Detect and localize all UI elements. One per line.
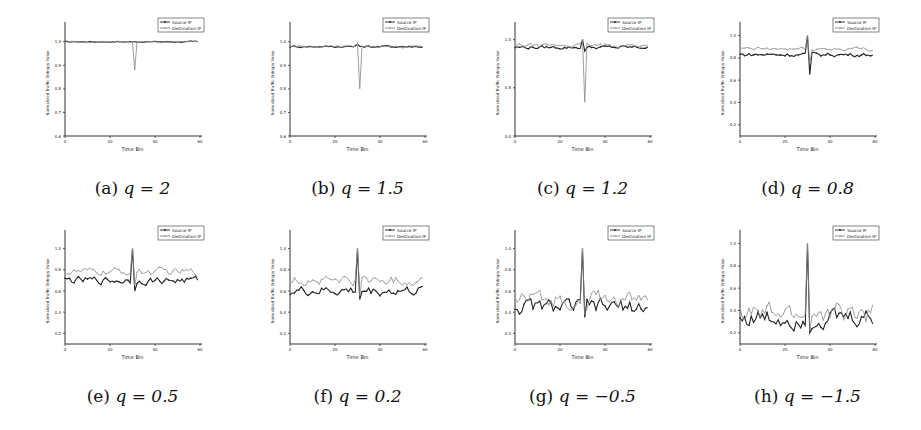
legend-entry: Destination IP (172, 26, 202, 31)
x-tick-label: 20 (107, 347, 113, 352)
x-tick-label: 20 (557, 347, 563, 352)
series-line-destination-ip (515, 40, 648, 103)
y-tick-label: 0.6 (55, 134, 62, 139)
legend: Source IPDestination IP (833, 18, 879, 32)
x-tick-label: 60 (872, 139, 878, 144)
caption-q-value: q = 1.5 (341, 178, 404, 198)
series-line-destination-ip (290, 44, 423, 89)
caption-label: (c) (537, 178, 560, 198)
chart-caption: (d) q = 0.8 (695, 178, 920, 198)
legend: Source IPDestination IP (158, 226, 204, 240)
caption-q-value: q = 0.5 (115, 386, 178, 406)
y-tick-label: 0.6 (730, 286, 737, 291)
series-line-source-ip (65, 249, 198, 291)
y-tick-label: 0.5 (505, 85, 512, 90)
legend-entry: Destination IP (622, 234, 652, 239)
y-tick-label: 1.0 (505, 37, 512, 42)
x-tick-label: 0 (64, 139, 67, 144)
caption-q-value: q = 1.2 (565, 178, 628, 198)
x-axis-label: Time Bin (796, 146, 819, 152)
y-axis-label: Normalized Traffic Entropy Value (720, 258, 725, 324)
legend-entry: Source IP (847, 228, 867, 233)
y-tick-label: 0.8 (280, 267, 287, 272)
caption-label: (g) (529, 386, 553, 406)
chart-panel-g: 0.20.40.60.81.00204060Time BinNormalized… (470, 208, 695, 418)
legend: Source IPDestination IP (833, 226, 879, 240)
x-tick-label: 20 (107, 139, 113, 144)
x-tick-label: 20 (332, 347, 338, 352)
y-tick-label: 1.0 (280, 246, 287, 251)
caption-q-value: q = −0.5 (559, 386, 636, 406)
x-tick-label: 40 (602, 347, 608, 352)
chart-panel-f: 0.20.40.60.81.00204060Time BinNormalized… (245, 208, 470, 418)
legend-entry: Destination IP (622, 26, 652, 31)
legend-entry: Destination IP (172, 234, 202, 239)
caption-q-value: q = −1.5 (784, 386, 861, 406)
caption-label: (e) (87, 386, 110, 406)
y-tick-label: 1.0 (505, 246, 512, 251)
x-tick-label: 20 (557, 139, 563, 144)
y-tick-label: 0.6 (55, 289, 62, 294)
legend-entry: Destination IP (847, 234, 877, 239)
x-tick-label: 40 (827, 139, 833, 144)
line-chart: 0.20.40.60.81.00204060Time BinNormalized… (245, 208, 470, 383)
y-tick-label: 1.0 (730, 33, 737, 38)
x-tick-label: 40 (377, 139, 383, 144)
y-tick-label: 0.0 (505, 134, 512, 139)
y-axis-label: Normalized Traffic Entropy Value (45, 50, 50, 116)
y-axis-label: Normalized Traffic Entropy Value (720, 50, 725, 116)
y-tick-label: 0.2 (280, 331, 287, 336)
x-tick-label: 40 (377, 347, 383, 352)
y-tick-label: 0.6 (730, 78, 737, 83)
x-tick-label: 60 (422, 347, 428, 352)
line-chart: 0.20.40.60.81.00204060Time BinNormalized… (20, 208, 245, 383)
chart-panel-b: 0.60.70.80.91.00204060Time BinNormalized… (245, 0, 470, 210)
legend-entry: Destination IP (847, 26, 877, 31)
line-chart: 0.00.51.00204060Time BinNormalized Traff… (470, 0, 695, 175)
x-tick-label: 60 (872, 347, 878, 352)
legend-entry: Source IP (622, 20, 642, 25)
y-tick-label: 0.8 (55, 267, 62, 272)
x-tick-label: 60 (647, 347, 653, 352)
line-chart: 0.60.70.80.91.00204060Time BinNormalized… (245, 0, 470, 175)
chart-panel-h: 0.20.40.60.81.00204060Time BinNormalized… (695, 208, 920, 418)
x-tick-label: 0 (514, 347, 517, 352)
x-axis-label: Time Bin (121, 146, 144, 152)
legend-entry: Destination IP (397, 26, 427, 31)
caption-q-value: q = 0.8 (791, 178, 854, 198)
line-chart: 0.20.40.60.81.00204060Time BinNormalized… (695, 0, 920, 175)
caption-label: (d) (761, 178, 785, 198)
y-tick-label: 1.0 (730, 241, 737, 246)
y-tick-label: 0.7 (280, 110, 287, 115)
y-axis-label: Normalized Traffic Entropy Value (270, 50, 275, 116)
legend: Source IPDestination IP (608, 18, 654, 32)
y-axis-label: Normalized Traffic Entropy Value (270, 258, 275, 324)
chart-caption: (g) q = −0.5 (470, 386, 695, 406)
y-tick-label: 0.8 (55, 86, 62, 91)
y-tick-label: 0.2 (55, 331, 62, 336)
line-chart: 0.60.70.80.91.00204060Time BinNormalized… (20, 0, 245, 175)
chart-panel-a: 0.60.70.80.91.00204060Time BinNormalized… (20, 0, 245, 210)
x-tick-label: 60 (422, 139, 428, 144)
x-tick-label: 40 (827, 347, 833, 352)
caption-label: (h) (754, 386, 778, 406)
y-tick-label: 1.0 (55, 246, 62, 251)
line-chart: 0.20.40.60.81.00204060Time BinNormalized… (470, 208, 695, 383)
x-tick-label: 60 (647, 139, 653, 144)
legend: Source IPDestination IP (158, 18, 204, 32)
x-tick-label: 0 (514, 139, 517, 144)
chart-caption: (b) q = 1.5 (245, 178, 470, 198)
y-tick-label: 0.7 (55, 110, 62, 115)
chart-panel-d: 0.20.40.60.81.00204060Time BinNormalized… (695, 0, 920, 210)
x-axis-label: Time Bin (571, 146, 594, 152)
y-tick-label: 0.8 (505, 267, 512, 272)
chart-panel-c: 0.00.51.00204060Time BinNormalized Traff… (470, 0, 695, 210)
caption-q-value: q = 2 (124, 178, 171, 198)
y-tick-label: 0.2 (730, 330, 737, 335)
y-tick-label: 0.2 (505, 331, 512, 336)
caption-label: (b) (311, 178, 335, 198)
x-tick-label: 60 (197, 139, 203, 144)
line-chart: 0.20.40.60.81.00204060Time BinNormalized… (695, 208, 920, 383)
x-tick-label: 0 (739, 139, 742, 144)
y-tick-label: 0.4 (505, 310, 512, 315)
